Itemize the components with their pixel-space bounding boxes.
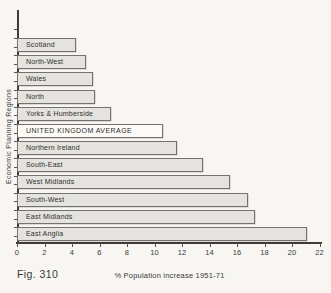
y-axis-tick [14,81,17,82]
y-axis-tick [14,167,17,168]
y-axis-tick [14,236,17,237]
bar-region: Northern Ireland [17,141,177,155]
y-axis-tick [14,29,17,30]
x-axis-tick-label: 4 [64,248,80,257]
y-axis-tick [14,201,17,202]
bar-region: East Anglia [17,227,307,241]
y-axis-tick [14,227,17,228]
x-axis-tick [72,243,73,247]
bar-region: North [17,90,95,104]
bar-label: East Midlands [18,213,73,221]
y-axis-tick [14,184,17,185]
bar-label: Scotland [18,41,55,49]
y-axis-label: Economic Planning Regions [5,82,12,192]
x-axis-tick-label: 16 [229,248,245,257]
x-axis-tick-label: 18 [257,248,273,257]
y-axis-tick [14,158,17,159]
bar-label: South-East [18,161,63,169]
y-axis-tick [14,150,17,151]
y-axis-tick [14,38,17,39]
bar-label: Wales [18,75,46,83]
x-axis-tick-label: 0 [9,248,25,257]
x-axis-tick [265,243,266,247]
figure-caption: Fig. 310 [17,268,58,280]
x-axis-label: % Population increase 1951-71 [17,271,322,280]
x-axis-tick [127,243,128,247]
x-axis-tick [210,243,211,247]
bar-label: East Anglia [18,230,63,238]
x-axis-tick [237,243,238,247]
y-axis-tick [14,124,17,125]
y-axis-tick [14,176,17,177]
x-axis-tick [17,243,18,247]
y-axis-tick [14,133,17,134]
y-axis-tick [14,98,17,99]
bar-region: East Midlands [17,210,255,224]
bar-label: North [18,93,44,101]
x-axis-tick [45,243,46,247]
x-axis-tick-label: 10 [147,248,163,257]
bar-label: South-West [18,196,64,204]
bar-label: UNITED KINGDOM AVERAGE [18,127,132,135]
y-axis-tick [14,90,17,91]
y-axis-tick [14,141,17,142]
bar-label: Yorks & Humberside [18,110,93,118]
y-axis-tick [14,210,17,211]
x-axis-tick [155,243,156,247]
y-axis-tick [14,219,17,220]
x-axis-tick [182,243,183,247]
x-axis-tick-label: 6 [92,248,108,257]
bar-label: West Midlands [18,178,74,186]
bar-region: South-East [17,158,203,172]
x-axis-tick [320,243,321,247]
y-axis-tick [14,64,17,65]
y-axis-tick [14,107,17,108]
bar-label: North-West [18,58,63,66]
bar-region: Yorks & Humberside [17,107,111,121]
x-axis-tick-label: 2 [37,248,53,257]
x-axis-tick [292,243,293,247]
bar-region: North-West [17,55,86,69]
x-axis-tick-label: 14 [202,248,218,257]
x-axis-tick [100,243,101,247]
y-axis-tick [14,193,17,194]
x-axis-tick-label: 20 [284,248,300,257]
x-axis-tick-label: 12 [174,248,190,257]
bar-region: South-West [17,193,248,207]
x-axis-tick-label: 22 [312,248,328,257]
bar-uk-average: UNITED KINGDOM AVERAGE [17,124,163,138]
y-axis-tick [14,47,17,48]
y-axis-tick [14,115,17,116]
y-axis-tick [14,55,17,56]
bar-region: Scotland [17,38,76,52]
figure-310: Economic Planning Regions ScotlandNorth-… [0,0,331,293]
y-axis-tick [14,72,17,73]
bar-label: Northern Ireland [18,144,80,152]
x-axis-line [16,242,322,244]
bar-region: Wales [17,72,93,86]
x-axis-tick-label: 8 [119,248,135,257]
bar-region: West Midlands [17,175,230,189]
